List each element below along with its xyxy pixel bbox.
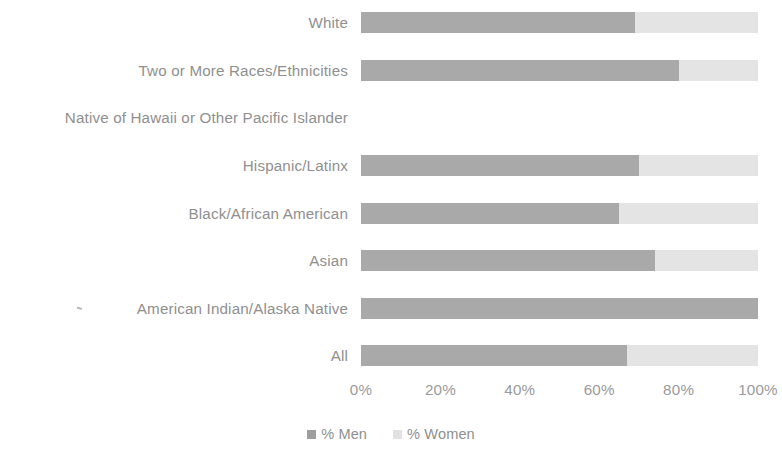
bar-row: Hispanic/Latinx (0, 142, 782, 190)
bar-row: All (0, 332, 782, 380)
x-axis-tick: 80% (663, 380, 694, 400)
category-label: Hispanic/Latinx (0, 156, 348, 175)
bar-row: Black/African American (0, 189, 782, 237)
bar-track (361, 107, 758, 128)
bar-segment-women[interactable] (655, 250, 758, 271)
bar-track (361, 203, 758, 224)
bar-segment-men[interactable] (361, 12, 635, 33)
bar-segment-men[interactable] (361, 298, 758, 319)
bar-segment-men[interactable] (361, 155, 639, 176)
bar-track (361, 12, 758, 33)
category-label: White (0, 13, 348, 32)
bar-segment-women[interactable] (619, 203, 758, 224)
chart-legend: % Men % Women (0, 425, 782, 443)
bar-track (361, 155, 758, 176)
x-axis-tick: 0% (350, 380, 372, 400)
bar-row: White (0, 0, 782, 47)
x-axis-tick: 100% (738, 380, 778, 400)
legend-swatch-women-icon (393, 430, 402, 439)
x-axis-tick-labels: 0%20%40%60%80%100% (361, 380, 758, 404)
stacked-bar-chart: WhiteTwo or More Races/EthnicitiesNative… (0, 0, 782, 458)
category-label: Two or More Races/Ethnicities (0, 61, 348, 80)
bar-segment-women[interactable] (627, 345, 758, 366)
legend-label-women: % Women (407, 425, 475, 443)
x-axis-tick: 20% (425, 380, 456, 400)
legend-item-men[interactable]: % Men (307, 425, 367, 443)
bar-track (361, 250, 758, 271)
category-label: Native of Hawaii or Other Pacific Island… (0, 108, 348, 127)
bar-segment-men[interactable] (361, 60, 679, 81)
bar-row: Two or More Races/Ethnicities (0, 47, 782, 95)
bar-segment-men[interactable] (361, 345, 627, 366)
bar-segment-men[interactable] (361, 250, 655, 271)
legend-label-men: % Men (321, 425, 367, 443)
category-label: All (0, 346, 348, 365)
category-label: Asian (0, 251, 348, 270)
chart-plot-area: WhiteTwo or More Races/EthnicitiesNative… (0, 0, 782, 372)
bar-track (361, 298, 758, 319)
legend-item-women[interactable]: % Women (393, 425, 475, 443)
bar-row: American Indian/Alaska Native (0, 285, 782, 333)
bar-track (361, 60, 758, 81)
bar-segment-men[interactable] (361, 203, 619, 224)
legend-swatch-men-icon (307, 430, 316, 439)
x-axis-tick: 60% (584, 380, 615, 400)
category-label: Black/African American (0, 204, 348, 223)
bar-segment-women[interactable] (639, 155, 758, 176)
bar-row: Native of Hawaii or Other Pacific Island… (0, 94, 782, 142)
bar-row: Asian (0, 237, 782, 285)
bar-track (361, 345, 758, 366)
category-label: American Indian/Alaska Native (0, 299, 348, 318)
x-axis-tick: 40% (504, 380, 535, 400)
bar-segment-women[interactable] (679, 60, 758, 81)
bar-segment-women[interactable] (635, 12, 758, 33)
